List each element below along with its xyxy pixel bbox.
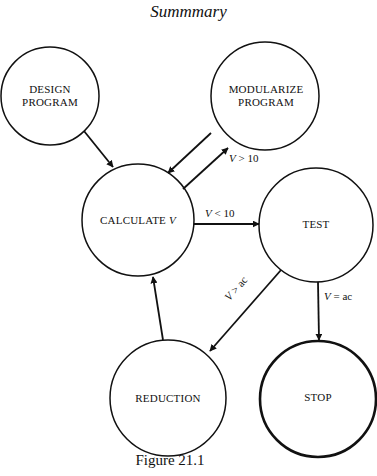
node-design-program: DESIGN PROGRAM [22,83,78,109]
node-label-text: CALCULATE [100,214,169,226]
edge-label-condition: = ac [331,290,352,302]
figure-caption: Figure 21.1 [0,452,340,469]
node-label-line: DESIGN [22,83,78,96]
flow-diagram [0,0,377,476]
node-label-text: TEST [302,218,329,230]
node-label-text: REDUCTION [135,392,200,404]
edge-label-variable: V [205,207,212,219]
edge-label-v-gt-10: V > 10 [229,152,258,164]
edge-label-condition: > 10 [236,152,259,164]
edge-label-condition: < 10 [212,207,235,219]
node-label-line: PROGRAM [229,96,304,109]
arrow-test-to-stop [318,282,319,340]
node-reduction: REDUCTION [135,392,200,405]
arrow-design-to-calculate [84,131,113,167]
node-calculate-v: CALCULATE V [100,214,176,227]
node-stop: STOP [304,391,332,404]
node-label-variable: V [169,214,176,226]
edge-label-v-lt-10: V < 10 [205,207,234,219]
node-label-text: STOP [304,391,332,403]
arrow-reduction-to-calculate [153,277,163,340]
node-test: TEST [302,218,329,231]
edges-layer [84,131,319,351]
node-label-line: PROGRAM [22,96,78,109]
arrow-modularize-to-calculate [168,133,211,173]
arrow-calculate-to-modularize [183,148,228,189]
node-modularize-program: MODULARIZE PROGRAM [229,83,304,109]
edge-label-variable: V [324,290,331,302]
edge-label-variable: V [229,152,236,164]
edge-label-v-eq-ac: V = ac [324,290,352,302]
node-label-line: MODULARIZE [229,83,304,96]
